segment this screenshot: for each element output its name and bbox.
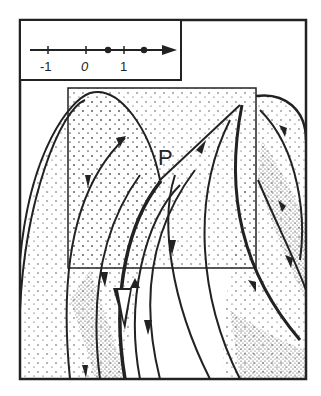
tick-label: -1: [40, 59, 52, 74]
phase-portrait-diagram: P -1 0 1: [0, 0, 321, 396]
marked-point: [105, 47, 111, 53]
tick-label: 1: [120, 59, 127, 74]
tick-label: 0: [81, 59, 89, 74]
fixed-point-p: [158, 180, 162, 184]
marked-point: [141, 47, 147, 53]
point-label: P: [158, 145, 173, 170]
